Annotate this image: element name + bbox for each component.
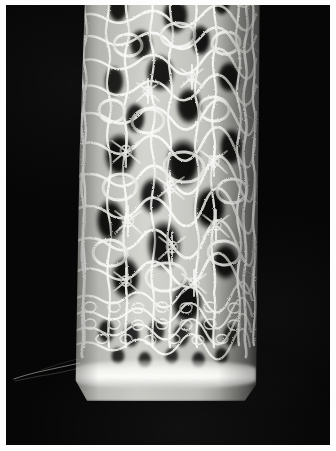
yarn-strand-network <box>68 5 260 401</box>
image-caption: Macro photograph of a strip of open knit… <box>0 0 1 1</box>
photo-dark-field <box>6 5 330 445</box>
lace-strip <box>68 5 260 401</box>
stray-fiber <box>10 357 82 385</box>
photograph: Macro photograph of a strip of open knit… <box>0 0 336 451</box>
bottom-fringe <box>68 385 260 426</box>
